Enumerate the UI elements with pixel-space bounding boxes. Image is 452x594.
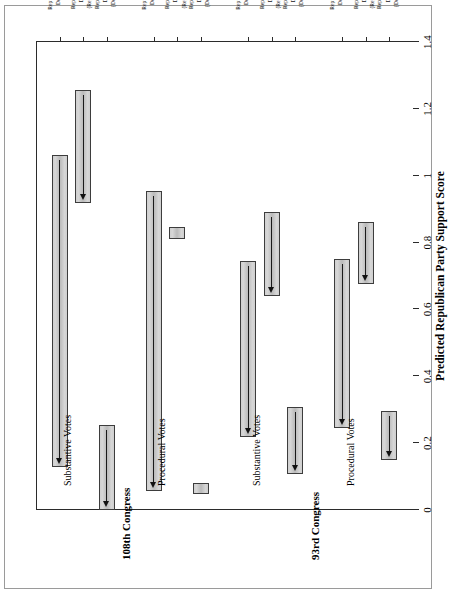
category-label: Rep. to Dem. District (Democrat) (93, 0, 117, 38)
category-label: Republican to Democrat (46, 0, 62, 38)
value-tick-label: 1.4 (421, 22, 433, 62)
category-label: Republican to Democrat (140, 0, 156, 38)
value-tick-label: 0.6 (421, 289, 433, 329)
interval-bar (75, 90, 91, 203)
interval-bar (169, 227, 185, 239)
interval-center-line (271, 217, 272, 291)
subpanel-title-108th-substantive: Substantive Votes (62, 415, 73, 486)
value-tick-label: 1 (421, 156, 433, 196)
panel-title-108th: 108th Congress (120, 488, 132, 560)
plot-area (36, 42, 413, 510)
interval-arrow-icon (292, 465, 298, 471)
value-axis-ticks: 00.20.40.60.811.21.4 (413, 42, 452, 510)
category-label: Republican to Democrat (234, 0, 250, 38)
interval-bar (240, 261, 256, 437)
interval-bar (193, 483, 209, 494)
category-axis (36, 41, 413, 42)
interval-center-line (295, 412, 296, 469)
value-tick-mark (413, 442, 419, 443)
interval-center-line (59, 160, 60, 462)
interval-bar (99, 425, 115, 510)
interval-center-line (83, 95, 84, 198)
value-tick-mark (413, 242, 419, 243)
value-tick-label: 0.4 (421, 356, 433, 396)
interval-arrow-icon (386, 451, 392, 457)
interval-arrow-icon (103, 501, 109, 507)
value-tick-mark (413, 509, 419, 510)
value-axis-title: Predicted Republican Party Support Score (434, 42, 446, 510)
interval-center-line (389, 416, 390, 455)
interval-center-line (365, 227, 366, 279)
value-tick-mark (413, 375, 419, 376)
subpanel-title-93rd-procedural: Procedural Votes (345, 418, 356, 486)
interval-bar (358, 222, 374, 284)
value-tick-label: 0 (421, 490, 433, 530)
category-label: Rep. to Dem. District (Democrat) (187, 0, 211, 38)
subpanel-title-93rd-substantive: Substantive Votes (251, 415, 262, 486)
interval-bar (264, 212, 280, 296)
value-tick-label: 0.2 (421, 423, 433, 463)
category-label: Rep. to Dem. District (Republican) (352, 0, 376, 38)
interval-arrow-icon (268, 287, 274, 293)
interval-center-line (153, 196, 154, 486)
category-label: Rep. to Dem. District (Republican) (258, 0, 282, 38)
value-tick-mark (413, 308, 419, 309)
category-label: Rep. to Dem. District (Democrat) (375, 0, 399, 38)
value-tick-mark (413, 175, 419, 176)
interval-arrow-icon (362, 275, 368, 281)
value-tick-label: 0.8 (421, 223, 433, 263)
category-label: Rep. to Dem. District (Republican) (69, 0, 93, 38)
category-label: Republican to Democrat (328, 0, 344, 38)
value-tick-mark (413, 108, 419, 109)
interval-bar (287, 407, 303, 474)
value-tick-label: 1.2 (421, 89, 433, 129)
interval-center-line (342, 264, 343, 423)
interval-bar (381, 411, 397, 460)
interval-center-line (248, 266, 249, 432)
panel-title-93rd: 93rd Congress (309, 492, 321, 560)
value-tick-mark (413, 41, 419, 42)
interval-center-line (106, 430, 107, 505)
subpanel-title-108th-procedural: Procedural Votes (156, 418, 167, 486)
category-label: Rep. to Dem. District (Democrat) (281, 0, 305, 38)
interval-bar (334, 259, 350, 428)
category-label: Rep. to Dem. District (Republican) (163, 0, 187, 38)
interval-arrow-icon (80, 194, 86, 200)
